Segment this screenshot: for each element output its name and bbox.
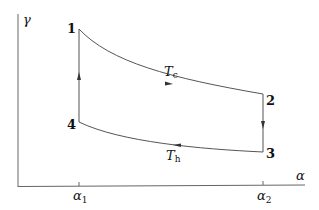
arrow-up-icon	[77, 72, 81, 80]
point-label-1: 1	[67, 21, 76, 36]
arrow-right-icon	[165, 82, 173, 86]
arrow-left-icon	[173, 144, 181, 148]
x-tick-label-alpha1: α1	[73, 188, 88, 205]
x-axis-label: α	[296, 168, 305, 183]
x-axis	[18, 185, 305, 187]
cycle	[79, 29, 263, 152]
cycle-diagram: γ α α1 α2 1 2 3 4 Tc Th	[0, 0, 319, 210]
curve-label-tc: Tc	[164, 64, 178, 80]
point-label-3: 3	[266, 146, 275, 161]
direction-arrows	[77, 72, 265, 147]
y-axis-label: γ	[23, 12, 31, 27]
arrow-down-icon	[261, 121, 265, 129]
point-label-4: 4	[67, 117, 76, 132]
axes	[18, 14, 305, 187]
point-label-2: 2	[266, 93, 275, 108]
curve-label-th: Th	[166, 148, 181, 164]
x-tick-label-alpha2: α2	[257, 188, 272, 205]
